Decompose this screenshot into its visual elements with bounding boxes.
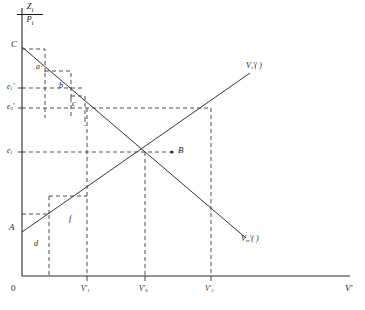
supply-demand-figure: Zi Pi (0, 0, 365, 310)
x-tick-label-v0: V′0 (139, 285, 148, 294)
point-label-B: B (178, 146, 184, 155)
region-label-d: d (34, 240, 38, 248)
figure-canvas (0, 0, 365, 310)
demand-curve-label: Vm′( ) (241, 235, 259, 244)
region-label-f: f (69, 215, 71, 223)
equilibrium-dot (170, 150, 173, 153)
y-tick-label-e1prime: e1′ (7, 83, 14, 92)
point-label-C: C (11, 40, 17, 49)
x-tick-label-v2: V′2 (205, 285, 214, 294)
step-box-a (22, 49, 45, 73)
supply-curve-line (22, 73, 250, 232)
region-label-a: a (36, 63, 40, 71)
supply-curve-label: Vs′( ) (246, 62, 262, 71)
x-tick-label-v1: V′1 (81, 285, 90, 294)
origin-label: 0 (11, 284, 16, 293)
region-label-b: b (59, 82, 63, 90)
point-label-A: A (9, 223, 15, 232)
region-label-c: c (72, 100, 76, 108)
y-tick-label-e0prime: e0′ (7, 103, 14, 112)
step-box-b (45, 71, 71, 98)
demand-curve-line (22, 47, 246, 238)
y-tick-label-e1: e1 (7, 147, 13, 156)
x-axis-name: V′ (345, 284, 352, 293)
